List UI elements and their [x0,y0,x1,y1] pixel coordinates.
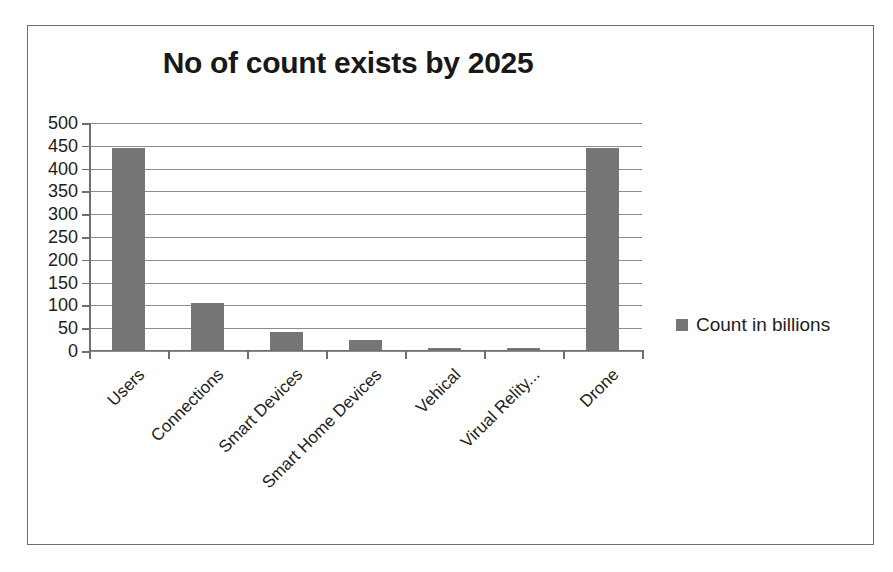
y-axis-tick-label: 300 [48,204,78,225]
x-axis-tick [247,350,249,359]
x-axis-label: Users [103,365,149,411]
x-axis-tick [89,350,91,359]
gridline [89,191,642,192]
y-axis-tick-label: 450 [48,135,78,156]
y-axis-tick-label: 250 [48,227,78,248]
x-axis-tick [405,350,407,359]
gridline [89,283,642,284]
y-axis-tick-label: 100 [48,295,78,316]
x-axis-tick [326,350,328,359]
chart-legend: Count in billions [676,314,830,336]
legend-label: Count in billions [696,314,830,336]
x-axis-label: Connections [147,365,228,446]
gridline [89,328,642,329]
y-axis-tick-label: 400 [48,158,78,179]
gridline [89,260,642,261]
gridline [89,214,642,215]
y-axis-tick-label: 150 [48,272,78,293]
gridline [89,123,642,124]
gridline [89,146,642,147]
gridline [89,237,642,238]
plot-area: 500450400350300250200150100500 UsersConn… [89,123,642,351]
chart-frame: No of count exists by 2025 5004504003503… [27,25,874,545]
gridline [89,169,642,170]
x-axis-tick [168,350,170,359]
bar [349,340,382,350]
bar [586,148,619,350]
y-axis-tick-label: 200 [48,249,78,270]
bar [270,332,303,349]
y-axis-tick-label: 350 [48,181,78,202]
y-axis-tick-label: 50 [58,318,78,339]
x-axis-label: Virual Relity... [456,365,543,452]
y-axis-tick-label: 500 [48,113,78,134]
x-axis-tick [484,350,486,359]
y-axis-tick-label: 0 [68,341,78,362]
gridline [89,305,642,306]
x-axis-label: Drone [576,365,623,412]
x-axis-label: Vehical [412,365,465,418]
x-axis-tick [642,350,644,359]
x-axis-line [89,350,642,352]
bar [191,303,224,350]
y-axis-line [89,123,91,351]
x-axis-tick [563,350,565,359]
chart-title: No of count exists by 2025 [28,46,668,80]
gridline [89,351,642,352]
bar [112,148,145,349]
legend-swatch-icon [676,319,688,331]
